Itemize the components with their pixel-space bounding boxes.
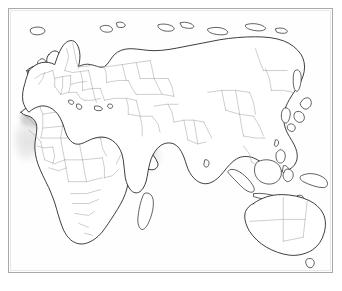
continent-australia (245, 195, 326, 256)
world-map-canvas (9, 9, 332, 272)
island-japan (287, 98, 311, 132)
distribution-map-figure (0, 0, 342, 291)
island-sri-lanka (204, 160, 209, 167)
peninsula-korea (281, 108, 290, 123)
island-tasmania (306, 258, 315, 267)
island-madagascar (138, 193, 154, 230)
map-frame-border (8, 8, 333, 273)
